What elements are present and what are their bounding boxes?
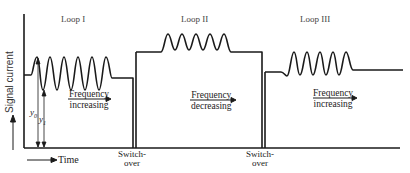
loop-3-waveform bbox=[265, 52, 403, 76]
y0-subscript: 0 bbox=[34, 113, 37, 119]
annotation-line1: Frequency bbox=[313, 89, 353, 98]
y1-label: y1 bbox=[39, 114, 46, 126]
y0-arrow-down bbox=[36, 142, 40, 147]
y1-subscript: 1 bbox=[43, 120, 46, 126]
loop-2-annotation: Frequency decreasing bbox=[191, 91, 232, 111]
switchover-2-label: Switch- over bbox=[246, 150, 274, 168]
y1-arrow-up bbox=[42, 90, 46, 96]
y0-arrow-up bbox=[36, 58, 40, 64]
switchover-1-label: Switch- over bbox=[118, 150, 146, 168]
loop-2-label: Loop II bbox=[181, 14, 208, 24]
annotation-line2: increasing bbox=[69, 101, 109, 110]
switchover-line2: over bbox=[246, 159, 274, 168]
loop-3-annotation: Frequency increasing bbox=[313, 89, 353, 109]
loop-3-label: Loop III bbox=[300, 14, 330, 24]
annotation-line1: Frequency bbox=[191, 91, 232, 100]
annotation-line1: Frequency bbox=[69, 90, 109, 99]
y-axis-arrow-head bbox=[11, 115, 16, 122]
time-arrow-head bbox=[51, 158, 57, 163]
annotation-line2: increasing bbox=[313, 100, 353, 109]
annotation-line2: decreasing bbox=[191, 102, 232, 111]
waveform-plot bbox=[0, 0, 410, 173]
x-axis-label: Time bbox=[58, 154, 79, 165]
y0-label: y0 bbox=[30, 107, 37, 119]
y1-arrow-down bbox=[42, 142, 46, 147]
signal-current-diagram: Loop I Loop II Loop III Frequency increa… bbox=[0, 0, 410, 173]
switchover-line2: over bbox=[118, 159, 146, 168]
y-axis-label: Signal current bbox=[4, 51, 15, 113]
loop-1-label: Loop I bbox=[61, 14, 85, 24]
loop-1-annotation: Frequency increasing bbox=[69, 90, 109, 110]
